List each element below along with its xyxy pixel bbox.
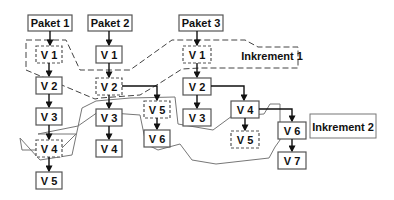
svg-text:V 1: V 1 [101,49,118,61]
svg-text:V 2: V 2 [101,81,118,93]
svg-text:V 1: V 1 [41,49,58,61]
svg-text:Paket 1: Paket 1 [31,17,70,29]
svg-text:V 2: V 2 [41,80,58,92]
svg-text:V 6: V 6 [284,125,301,137]
svg-text:V 4: V 4 [237,104,254,116]
svg-text:V 1: V 1 [189,49,206,61]
svg-text:V 7: V 7 [284,155,301,167]
svg-text:V 3: V 3 [189,112,206,124]
svg-text:V 4: V 4 [41,143,58,155]
increment-2-label: Inkrement 2 [312,121,374,133]
svg-text:V 3: V 3 [101,112,118,124]
svg-text:V 6: V 6 [149,133,166,145]
svg-text:V 4: V 4 [101,143,118,155]
svg-text:V 5: V 5 [237,134,254,146]
svg-text:Paket 2: Paket 2 [91,17,130,29]
version-increment-diagram: Paket 1 V 1 V 2 V 3 V 4 V 5 Paket 2 V 1 … [0,0,394,200]
svg-text:V 2: V 2 [189,81,206,93]
svg-text:V 3: V 3 [41,111,58,123]
increment-1-label: Inkrement 1 [241,50,303,62]
svg-text:V 5: V 5 [149,104,166,116]
paket-3-column: Paket 3 V 1 V 2 V 3 V 4 V 5 V 6 V 7 [179,15,306,169]
svg-text:V 5: V 5 [41,175,58,187]
svg-text:Paket 3: Paket 3 [182,17,221,29]
increment-1-boundary [26,40,298,99]
paket-2-column: Paket 2 V 1 V 2 V 3 V 4 V 5 V 6 [88,15,170,157]
paket-1-column: Paket 1 V 1 V 2 V 3 V 4 V 5 [28,15,72,189]
